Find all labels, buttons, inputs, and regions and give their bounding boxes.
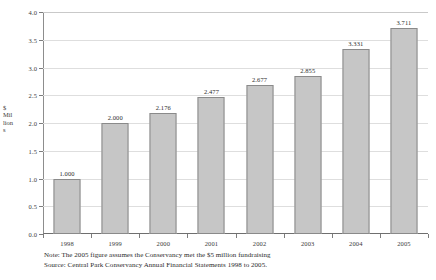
x-tick-mark xyxy=(380,234,381,238)
plot-area: 0.00.51.01.52.02.53.03.54.0 1.0002.0002.… xyxy=(43,12,428,234)
bar xyxy=(150,113,177,234)
bar-slot: 2.477 xyxy=(187,12,235,234)
bar xyxy=(342,49,369,234)
x-tick-label: 2001 xyxy=(205,240,218,247)
x-tick-label: 1999 xyxy=(108,240,121,247)
bar xyxy=(54,179,81,235)
x-tick-mark xyxy=(91,234,92,238)
y-axis-title-line-4: s xyxy=(3,126,23,133)
bar-slot: 2.176 xyxy=(139,12,187,234)
bar-value-label: 2.855 xyxy=(300,67,315,74)
x-tick-mark xyxy=(332,234,333,238)
bar-slot: 3.331 xyxy=(332,12,380,234)
x-tick-mark xyxy=(43,234,44,238)
bar-slot: 3.711 xyxy=(380,12,428,234)
y-tick-label: 4.0 xyxy=(29,9,37,16)
y-tick-label: 2.0 xyxy=(29,120,37,127)
x-tick-label: 2003 xyxy=(301,240,314,247)
bar-slot: 2.677 xyxy=(236,12,284,234)
bar xyxy=(294,76,321,234)
y-axis-title-line-3: lion xyxy=(3,119,23,126)
y-tick-label: 1.5 xyxy=(29,147,37,154)
bar-slot: 2.855 xyxy=(284,12,332,234)
bar xyxy=(102,123,129,234)
y-tick-label: 0.5 xyxy=(29,203,37,210)
x-tick-label: 1998 xyxy=(60,240,73,247)
x-tick-label: 2004 xyxy=(349,240,362,247)
bar-value-label: 2.477 xyxy=(204,88,219,95)
bars-layer: 1.0002.0002.1762.4772.6772.8553.3313.711 xyxy=(43,12,428,234)
y-tick-label: 1.0 xyxy=(29,175,37,182)
source-text: Source: Central Park Conservancy Annual … xyxy=(44,261,424,271)
x-tick-mark xyxy=(284,234,285,238)
x-tick-mark xyxy=(236,234,237,238)
note-text: Note: The 2005 figure assumes the Conser… xyxy=(44,251,424,261)
bar-value-label: 2.176 xyxy=(156,104,171,111)
bar-value-label: 2.677 xyxy=(252,76,267,83)
x-tick-label: 2000 xyxy=(157,240,170,247)
bar-slot: 1.000 xyxy=(43,12,91,234)
y-tick-label: 0.0 xyxy=(29,231,37,238)
x-tick-mark xyxy=(428,234,429,238)
y-tick-label: 2.5 xyxy=(29,92,37,99)
x-tick-mark xyxy=(139,234,140,238)
bar xyxy=(246,85,273,234)
y-tick-label: 3.5 xyxy=(29,36,37,43)
bar-value-label: 3.331 xyxy=(348,40,363,47)
y-axis-title-line-1: $ xyxy=(3,104,23,111)
y-axis-title: $ Mil lion s xyxy=(3,104,23,134)
x-tick-label: 2002 xyxy=(253,240,266,247)
y-axis-title-line-2: Mil xyxy=(3,111,23,118)
footnotes: Note: The 2005 figure assumes the Conser… xyxy=(44,251,424,270)
bar-value-label: 3.711 xyxy=(396,19,411,26)
x-tick-label: 2005 xyxy=(397,240,410,247)
bar xyxy=(390,28,417,234)
bar xyxy=(198,97,225,234)
bar-value-label: 2.000 xyxy=(108,114,123,121)
y-tick-label: 3.0 xyxy=(29,64,37,71)
bar-chart-figure: $ Mil lion s 0.00.51.01.52.02.53.03.54.0… xyxy=(0,0,436,280)
bar-value-label: 1.000 xyxy=(60,170,75,177)
bar-slot: 2.000 xyxy=(91,12,139,234)
x-tick-mark xyxy=(187,234,188,238)
